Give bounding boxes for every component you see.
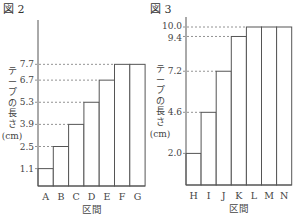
bar-F	[115, 64, 130, 186]
y-tick-label: 9.4	[168, 33, 183, 43]
category-label: K	[235, 190, 243, 201]
category-label: M	[264, 190, 274, 201]
figure-title: 図 3	[150, 3, 172, 16]
category-label: I	[207, 190, 211, 201]
bar-C	[69, 124, 84, 186]
figure-title: 図 2	[3, 3, 25, 16]
category-label: L	[251, 190, 258, 201]
chart-2: 図 3HIJKLMN2.04.67.29.410.0テープの長さ(cm)区間	[150, 3, 292, 214]
bar-K	[231, 36, 246, 185]
y-tick-label: 6.7	[20, 75, 35, 85]
y-axis-label: さ	[8, 119, 17, 129]
category-label: E	[103, 191, 110, 202]
bar-H	[186, 153, 201, 185]
category-label: C	[73, 191, 80, 202]
category-label: A	[41, 191, 49, 202]
y-tick-label: 7.2	[168, 66, 182, 76]
y-axis-label: プ	[8, 87, 17, 97]
y-tick-label: 2.0	[168, 148, 183, 158]
chart-1: 図 2ABCDEFG1.12.53.95.36.77.7テープの長さ(cm)区間	[2, 3, 145, 215]
y-axis-label: テ	[156, 64, 165, 74]
y-tick-label: 2.5	[20, 142, 35, 152]
y-tick-label: 1.1	[20, 164, 34, 174]
bar-M	[262, 27, 277, 185]
x-axis-label: 区間	[229, 203, 249, 214]
y-tick-label: 10.0	[162, 21, 182, 31]
y-axis-label: の	[8, 98, 17, 108]
category-label: N	[280, 190, 288, 201]
y-axis-label: 長	[8, 108, 17, 118]
y-tick-label: 4.6	[168, 107, 183, 117]
bar-G	[130, 64, 145, 186]
y-axis-label: (cm)	[2, 131, 23, 141]
charts-figure: 図 2ABCDEFG1.12.53.95.36.77.7テープの長さ(cm)区間…	[0, 0, 294, 217]
y-axis-label: 長	[156, 106, 165, 116]
category-label: B	[57, 191, 64, 202]
category-label: G	[134, 191, 142, 202]
bar-J	[216, 71, 231, 185]
y-axis-label: さ	[156, 117, 165, 127]
bar-E	[99, 80, 114, 186]
y-axis-label: プ	[156, 85, 165, 95]
category-label: F	[119, 191, 126, 202]
y-axis-label: (cm)	[150, 129, 171, 139]
y-tick-label: 7.7	[20, 59, 35, 69]
category-label: J	[221, 190, 226, 201]
y-axis-label: テ	[8, 66, 17, 76]
y-tick-label: 3.9	[20, 119, 35, 129]
bar-I	[201, 112, 216, 185]
bar-N	[277, 27, 292, 185]
y-axis-label: ー	[156, 75, 165, 85]
category-label: H	[189, 190, 197, 201]
bar-B	[53, 147, 68, 187]
category-label: D	[88, 191, 96, 202]
bar-L	[246, 27, 261, 185]
x-axis-label: 区間	[82, 204, 102, 215]
y-axis-label: の	[156, 96, 165, 106]
bar-D	[84, 102, 99, 186]
y-axis-label: ー	[8, 77, 17, 87]
bar-A	[38, 169, 53, 186]
y-tick-label: 5.3	[20, 97, 35, 107]
